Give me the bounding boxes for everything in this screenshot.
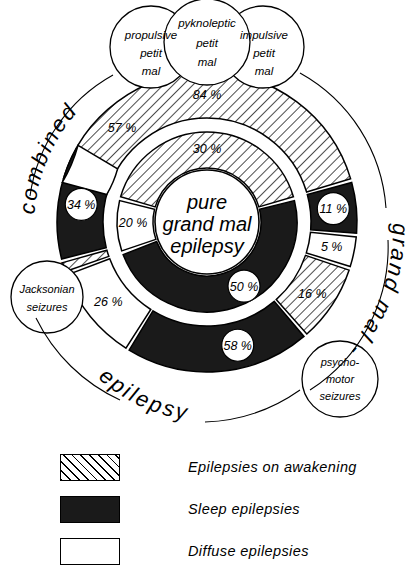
- impulsive-petit-mal-line-2: petit: [252, 47, 276, 59]
- center-line-3: epilepsy: [170, 235, 244, 257]
- slice-value-label: 50 %: [230, 280, 259, 294]
- legend: Epilepsies on awakening Sleep epilepsies…: [0, 448, 414, 562]
- impulsive-petit-mal-line-3: mal: [255, 65, 274, 77]
- impulsive-petit-mal-line-1: impulsive: [240, 29, 288, 41]
- slice-value-label: 57 %: [108, 121, 137, 135]
- jacksonian-seizures-line-1: Jacksonian: [18, 283, 74, 295]
- legend-item-awakening: Epilepsies on awakening: [60, 450, 357, 484]
- psychomotor-seizures-line-3: seizures: [320, 390, 361, 402]
- legend-swatch-diffuse: [60, 538, 120, 565]
- propulsive-petit-mal-line-2: petit: [139, 47, 163, 59]
- pyknoleptic-petit-mal-line-1: pyknoleptic: [177, 17, 236, 29]
- jacksonian-seizures-circle: [11, 261, 83, 333]
- legend-swatch-sleep: [60, 496, 120, 523]
- legend-item-diffuse: Diffuse epilepsies: [60, 534, 309, 568]
- slice-value-label: 5 %: [321, 240, 343, 254]
- slice-value-label: 84 %: [193, 88, 222, 102]
- legend-item-sleep: Sleep epilepsies: [60, 492, 300, 526]
- slice-value-label: 20 %: [118, 216, 148, 230]
- slice-value-label: 16 %: [298, 287, 327, 301]
- slice-value-label: 34 %: [67, 198, 96, 212]
- center-line-1: pure: [186, 191, 227, 213]
- legend-swatch-awakening: [60, 454, 120, 481]
- pyknoleptic-petit-mal-line-2: petit: [195, 37, 219, 49]
- top-circle-group: propulsive petit mal pyknoleptic petit m…: [110, 0, 304, 88]
- slice-value-label: 26 %: [93, 295, 123, 309]
- propulsive-petit-mal-line-1: propulsive: [124, 29, 177, 41]
- legend-label-awakening: Epilepsies on awakening: [188, 459, 357, 475]
- slice-value-label: 30 %: [193, 142, 222, 156]
- leader-epilepsy-right: [205, 390, 300, 422]
- legend-label-sleep: Sleep epilepsies: [188, 501, 300, 517]
- slice-value-label: 58 %: [223, 339, 252, 353]
- center-line-2: grand mal: [163, 213, 252, 235]
- pyknoleptic-petit-mal-line-3: mal: [198, 56, 217, 68]
- propulsive-petit-mal-line-3: mal: [142, 65, 161, 77]
- legend-label-diffuse: Diffuse epilepsies: [188, 543, 309, 559]
- jacksonian-seizures-line-2: seizures: [27, 301, 68, 313]
- slice-value-label: 11 %: [320, 202, 348, 216]
